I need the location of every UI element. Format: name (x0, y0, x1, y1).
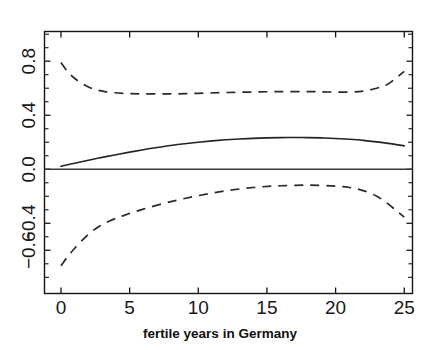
y-axis-ticks (45, 34, 413, 277)
y-tick-label-0: 0.8 (18, 48, 39, 74)
series-fitted-effect (61, 138, 404, 167)
y-tick-label-2: 0.0 (18, 156, 39, 182)
x-tick-label-5: 25 (394, 297, 415, 318)
x-tick-label-0: 0 (56, 297, 67, 318)
series-upper-confidence-band (61, 63, 404, 94)
y-tick-label-4: −0.6 (18, 232, 39, 270)
x-tick-label-2: 10 (188, 297, 209, 318)
chart-curves (45, 63, 413, 266)
x-axis-ticks (61, 32, 404, 294)
plot-frame (45, 32, 413, 294)
chart-container: 0.8 0.4 0.0 −0.4 −0.6 0 5 10 15 20 25 fe… (0, 0, 441, 350)
series-lower-confidence-band (61, 185, 404, 266)
x-tick-label-3: 15 (256, 297, 277, 318)
x-tick-label-1: 5 (124, 297, 135, 318)
chart-svg: 0.8 0.4 0.0 −0.4 −0.6 0 5 10 15 20 25 fe… (0, 0, 441, 350)
x-axis-title: fertile years in Germany (143, 326, 297, 341)
x-tick-label-4: 20 (325, 297, 346, 318)
y-tick-label-1: 0.4 (18, 102, 39, 129)
